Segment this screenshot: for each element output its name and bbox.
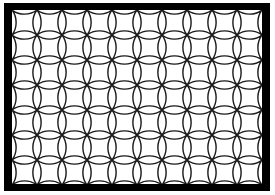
bone-tile [212,10,237,35]
bone-tile [12,10,37,35]
bone-tile [112,85,137,110]
bone-tile [237,60,262,85]
bone-tile [62,35,87,60]
bone-tile [187,10,212,35]
bone-tile [237,10,262,35]
artwork-canvas [0,0,275,195]
bone-tile [237,135,262,160]
bone-tile [187,85,212,110]
bone-tile [162,10,187,35]
bone-tile [237,110,262,135]
bone-tile [212,60,237,85]
bone-tile [62,110,87,135]
bone-tile [87,60,112,85]
bone-tile [137,35,162,60]
bone-tile [112,135,137,160]
bone-tile [112,160,137,185]
tessellation-artwork [0,0,275,195]
bone-tile [62,85,87,110]
bone-tile [12,160,37,185]
bone-tile [37,85,62,110]
bone-tile [212,110,237,135]
bone-tile [137,10,162,35]
bone-tile [37,60,62,85]
bone-tile [12,60,37,85]
bone-tile [87,135,112,160]
bone-tile [12,35,37,60]
bone-tile [62,135,87,160]
bone-tile [162,35,187,60]
bone-tile [112,60,137,85]
bone-tile [137,85,162,110]
bone-tile [187,110,212,135]
bone-tile [237,85,262,110]
bone-tile [37,160,62,185]
bone-tile [87,35,112,60]
bone-tile [187,60,212,85]
bone-tile [137,60,162,85]
bone-tile [137,135,162,160]
bone-tile [112,35,137,60]
bone-tile [162,110,187,135]
bone-tile [87,10,112,35]
bone-tile [187,135,212,160]
bone-tile [87,160,112,185]
bone-tile [112,110,137,135]
bone-tile [62,160,87,185]
bone-tile [162,160,187,185]
bone-tile [87,110,112,135]
bone-tile [12,85,37,110]
bone-tile [12,110,37,135]
bone-tile [112,10,137,35]
bone-tile [162,60,187,85]
bone-tile [137,110,162,135]
bone-tile [37,10,62,35]
bone-tile [187,35,212,60]
bone-tile [162,85,187,110]
bone-tile [37,135,62,160]
bone-tile [37,35,62,60]
bone-tile [212,135,237,160]
bone-tile [237,160,262,185]
bone-tile [187,160,212,185]
bone-tile [62,60,87,85]
bone-tile [87,85,112,110]
bone-tile [212,160,237,185]
bone-tile [162,135,187,160]
bone-tile [237,35,262,60]
bone-tile [37,110,62,135]
bone-tile [62,10,87,35]
bone-tile [212,85,237,110]
bone-tile [137,160,162,185]
bone-tile [12,135,37,160]
bone-tile [212,35,237,60]
